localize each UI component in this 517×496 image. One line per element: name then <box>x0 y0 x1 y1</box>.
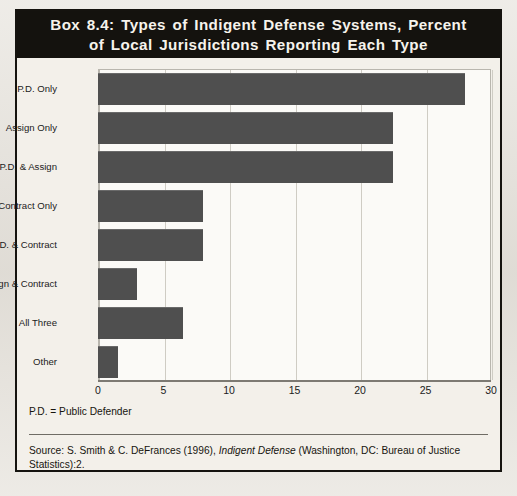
source-prefix: Source: S. Smith & C. DeFrances (1996), <box>29 445 219 456</box>
bar-other <box>98 346 118 378</box>
figure-title-line-2: of Local Jurisdictions Reporting Each Ty… <box>89 35 428 55</box>
category-label: All Three <box>0 307 57 338</box>
bar-row <box>98 151 491 182</box>
bar-row <box>98 268 491 299</box>
x-axis-baseline <box>98 380 491 382</box>
x-tick-label: 10 <box>209 384 249 396</box>
box-figure: Box 8.4: Types of Indigent Defense Syste… <box>15 9 502 472</box>
x-tick-label: 30 <box>471 384 511 396</box>
bar-p-d-assign <box>98 151 393 183</box>
bar-row <box>98 307 491 338</box>
x-tick-label: 25 <box>406 384 446 396</box>
legend-note: P.D. = Public Defender <box>29 406 132 417</box>
bar-row <box>98 346 491 377</box>
source-citation: Source: S. Smith & C. DeFrances (1996), … <box>29 444 486 472</box>
x-tick-label: 0 <box>78 384 118 396</box>
bar-row <box>98 73 491 104</box>
bar-row <box>98 229 491 260</box>
footer-divider <box>29 434 488 435</box>
category-label: P.D. & Assign <box>0 151 57 182</box>
bar-assign-only <box>98 112 393 144</box>
bar-p-d-contract <box>98 229 203 261</box>
category-label: Contract Only <box>0 190 57 221</box>
bar-assign-contract <box>98 268 137 300</box>
category-label: P.D. & Contract <box>0 229 57 260</box>
bar-p-d-only <box>98 73 465 105</box>
x-tick-label: 5 <box>144 384 184 396</box>
category-label: P.D. Only <box>0 73 57 104</box>
category-label: Assign & Contract <box>0 268 57 299</box>
x-tick-label: 20 <box>340 384 380 396</box>
bar-contract-only <box>98 190 203 222</box>
figure-title-band: Box 8.4: Types of Indigent Defense Syste… <box>17 11 500 58</box>
bar-row <box>98 190 491 221</box>
category-label: Assign Only <box>0 112 57 143</box>
x-tick-label: 15 <box>275 384 315 396</box>
bar-all-three <box>98 307 183 339</box>
figure-title-line-1: Box 8.4: Types of Indigent Defense Syste… <box>50 15 466 35</box>
chart-region: P.D. OnlyAssign OnlyP.D. & AssignContrac… <box>17 58 500 470</box>
bar-row <box>98 112 491 143</box>
source-title-italic: Indigent Defense <box>219 445 296 456</box>
page-root: Box 8.4: Types of Indigent Defense Syste… <box>0 0 517 496</box>
gridline <box>492 70 493 380</box>
category-label: Other <box>0 346 57 377</box>
